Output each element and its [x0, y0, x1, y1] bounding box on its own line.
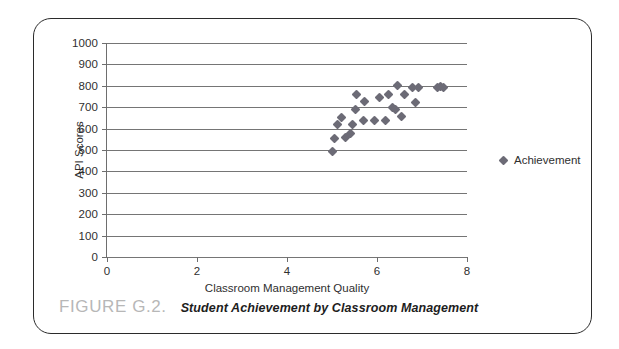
y-tick-mark — [102, 64, 107, 65]
figure-card: 01002003004005006007008009001000 02468 C… — [33, 18, 592, 334]
y-tick-mark — [102, 129, 107, 130]
gridline — [107, 171, 467, 172]
data-point — [413, 83, 423, 93]
x-tick-mark — [287, 257, 288, 262]
y-tick-label: 200 — [79, 208, 99, 220]
y-tick-mark — [102, 43, 107, 44]
data-point — [392, 81, 402, 91]
plot-area: 01002003004005006007008009001000 02468 C… — [107, 43, 467, 257]
chart-legend: Achievement — [500, 154, 580, 166]
x-tick-label: 0 — [104, 265, 110, 277]
gridline — [107, 193, 467, 194]
y-tick-label: 900 — [79, 58, 99, 70]
data-point — [328, 147, 338, 157]
y-tick-label: 100 — [79, 230, 99, 242]
data-point — [329, 133, 339, 143]
scatter-chart: 01002003004005006007008009001000 02468 C… — [34, 19, 593, 289]
y-tick-label: 800 — [79, 80, 99, 92]
y-tick-mark — [102, 236, 107, 237]
x-axis-title: Classroom Management Quality — [205, 282, 369, 294]
y-tick-label: 0 — [92, 251, 99, 263]
y-tick-label: 300 — [79, 187, 99, 199]
gridline — [107, 107, 467, 108]
gridline — [107, 150, 467, 151]
data-point — [359, 115, 369, 125]
legend-diamond-icon — [499, 155, 509, 165]
x-tick-mark — [467, 257, 468, 262]
data-point — [352, 89, 362, 99]
data-point — [350, 104, 360, 114]
gridline — [107, 214, 467, 215]
x-tick-mark — [197, 257, 198, 262]
gridline — [107, 43, 467, 44]
y-tick-mark — [102, 214, 107, 215]
data-point — [410, 98, 420, 108]
legend-label: Achievement — [514, 154, 580, 166]
x-tick-mark — [377, 257, 378, 262]
x-tick-mark — [107, 257, 108, 262]
figure-caption: FIGURE G.2. Student Achievement by Class… — [59, 297, 478, 317]
data-point — [383, 89, 393, 99]
y-tick-label: 1000 — [72, 37, 98, 49]
data-point — [359, 96, 369, 106]
x-tick-label: 6 — [374, 265, 380, 277]
figure-title: Student Achievement by Classroom Managem… — [181, 301, 479, 315]
data-point — [370, 115, 380, 125]
x-tick-label: 8 — [464, 265, 470, 277]
y-tick-mark — [102, 171, 107, 172]
x-tick-label: 4 — [284, 265, 290, 277]
y-tick-mark — [102, 193, 107, 194]
data-point — [397, 112, 407, 122]
gridline — [107, 236, 467, 237]
data-point — [400, 89, 410, 99]
gridline — [107, 64, 467, 65]
y-tick-mark — [102, 150, 107, 151]
y-tick-label: 700 — [79, 101, 99, 113]
y-tick-mark — [102, 107, 107, 108]
gridline — [107, 129, 467, 130]
x-tick-label: 2 — [194, 265, 200, 277]
y-tick-mark — [102, 86, 107, 87]
y-axis-title: API Scores — [73, 121, 85, 179]
data-point — [380, 115, 390, 125]
figure-number: FIGURE G.2. — [59, 297, 167, 317]
